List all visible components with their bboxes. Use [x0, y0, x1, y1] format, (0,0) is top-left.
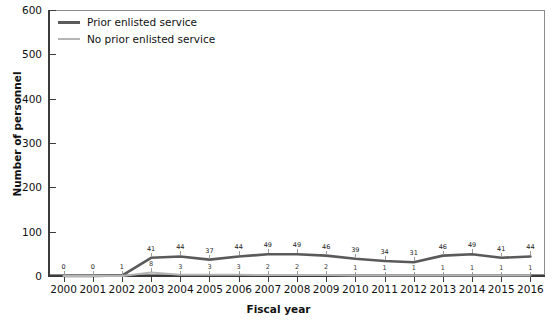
data-label-leader — [355, 254, 356, 258]
data-label: 1 — [340, 265, 370, 272]
x-axis-title: Fiscal year — [0, 303, 557, 315]
x-tick — [414, 277, 415, 282]
data-label: 8 — [136, 261, 166, 268]
data-label: 1 — [428, 265, 458, 272]
y-tick — [50, 143, 56, 144]
data-label-leader — [472, 272, 473, 276]
data-label-leader — [268, 271, 269, 275]
data-label-leader — [326, 271, 327, 275]
data-label-leader — [151, 268, 152, 272]
data-label: 1 — [486, 265, 516, 272]
data-label: 44 — [515, 244, 545, 251]
data-label: 49 — [282, 242, 312, 249]
data-label: 44 — [165, 244, 195, 251]
data-label: 31 — [399, 250, 429, 257]
y-tick-label: 0 — [8, 271, 42, 282]
x-tick — [268, 277, 269, 282]
legend-label-prior-enlisted-service: Prior enlisted service — [87, 17, 197, 28]
data-label-leader — [209, 255, 210, 259]
data-label: 44 — [224, 244, 254, 251]
data-label-leader — [268, 249, 269, 253]
x-tick — [472, 277, 473, 282]
data-label-leader — [530, 251, 531, 255]
x-tick-label: 2016 — [510, 284, 550, 295]
y-tick — [50, 54, 56, 55]
data-label: 2 — [282, 264, 312, 271]
legend-label-no-prior-enlisted-service: No prior enlisted service — [87, 34, 215, 45]
data-label: 1 — [515, 265, 545, 272]
x-tick — [239, 277, 240, 282]
data-label: 1 — [107, 264, 137, 271]
data-label: 49 — [457, 242, 487, 249]
data-label-leader — [180, 251, 181, 255]
data-label-leader — [472, 249, 473, 253]
y-tick — [50, 187, 56, 188]
y-tick-label: 600 — [8, 5, 42, 16]
data-label-leader — [530, 272, 531, 276]
data-label-leader — [93, 271, 94, 275]
legend-item-prior-enlisted-service: Prior enlisted service — [58, 14, 215, 30]
data-label: 3 — [224, 264, 254, 271]
data-label: 2 — [311, 264, 341, 271]
x-tick — [180, 277, 181, 282]
data-label-leader — [122, 271, 123, 275]
data-label-leader — [443, 272, 444, 276]
data-label: 2 — [253, 264, 283, 271]
x-tick — [501, 277, 502, 282]
data-label: 39 — [340, 247, 370, 254]
x-tick — [326, 277, 327, 282]
data-label-leader — [180, 271, 181, 275]
x-tick — [122, 277, 123, 282]
data-label-leader — [443, 251, 444, 255]
data-label: 3 — [194, 264, 224, 271]
data-label: 0 — [49, 264, 79, 271]
data-label: 49 — [253, 242, 283, 249]
data-label: 41 — [136, 246, 166, 253]
data-label: 1 — [370, 265, 400, 272]
plot-area-frame — [48, 10, 545, 275]
data-label: 34 — [370, 249, 400, 256]
data-label-leader — [209, 271, 210, 275]
data-label-leader — [64, 271, 65, 275]
data-label-leader — [414, 257, 415, 261]
x-tick — [530, 277, 531, 282]
chart-legend: Prior enlisted service No prior enlisted… — [58, 14, 215, 48]
y-tick — [50, 232, 56, 233]
data-label: 37 — [194, 248, 224, 255]
data-label-leader — [501, 253, 502, 257]
x-tick — [385, 277, 386, 282]
data-label-leader — [239, 251, 240, 255]
x-tick — [209, 277, 210, 282]
x-tick — [64, 277, 65, 282]
data-label: 1 — [457, 265, 487, 272]
x-tick — [151, 277, 152, 282]
data-label-leader — [297, 271, 298, 275]
y-tick — [50, 10, 56, 11]
data-label: 1 — [399, 265, 429, 272]
x-tick — [355, 277, 356, 282]
legend-swatch-no-prior-enlisted-service — [58, 38, 80, 40]
x-tick — [443, 277, 444, 282]
data-label-leader — [355, 272, 356, 276]
data-label-leader — [414, 272, 415, 276]
y-tick — [50, 99, 56, 100]
data-label: 0 — [78, 264, 108, 271]
data-label: 46 — [428, 244, 458, 251]
legend-item-no-prior-enlisted-service: No prior enlisted service — [58, 31, 215, 47]
y-tick-label: 100 — [8, 227, 42, 238]
data-label: 3 — [165, 264, 195, 271]
data-label-leader — [501, 272, 502, 276]
chart-container: 0100200300400500600 Number of personnel … — [0, 0, 557, 321]
y-axis-title: Number of personnel — [11, 54, 23, 214]
data-label-leader — [297, 249, 298, 253]
x-tick — [297, 277, 298, 282]
data-label-leader — [326, 251, 327, 255]
data-label-leader — [239, 271, 240, 275]
data-label: 41 — [486, 246, 516, 253]
data-label-leader — [151, 253, 152, 257]
legend-swatch-prior-enlisted-service — [58, 21, 80, 24]
x-tick — [93, 277, 94, 282]
data-label-leader — [385, 272, 386, 276]
data-label: 46 — [311, 244, 341, 251]
data-label-leader — [385, 256, 386, 260]
